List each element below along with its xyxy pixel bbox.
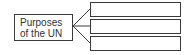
central-node-line-1: Purposes — [20, 17, 72, 28]
branch-box-3[interactable] — [90, 36, 181, 51]
connector-line-3 — [73, 26, 90, 43]
central-node-box: Purposes of the UN — [14, 14, 73, 41]
central-node-line-2: of the UN — [20, 28, 72, 39]
connector-line-1 — [73, 9, 90, 26]
branch-box-2[interactable] — [90, 19, 181, 34]
branch-box-1[interactable] — [90, 2, 181, 17]
